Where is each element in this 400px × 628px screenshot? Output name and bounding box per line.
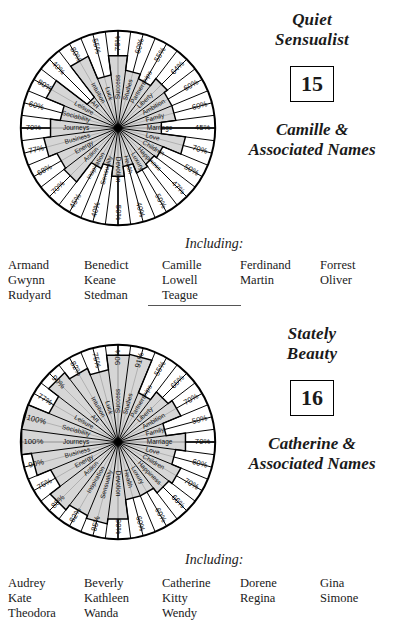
- name-item: Beverly: [84, 576, 162, 591]
- panel-side-column: Quiet Sensualist 15 Camille & Associated…: [228, 10, 396, 160]
- name-item: Martin: [240, 273, 320, 288]
- chart-value-label: 60%: [133, 37, 146, 54]
- chart-value-label: 75%: [36, 476, 54, 492]
- chart-value-label: 50%: [114, 205, 123, 221]
- name-item: Theodora: [8, 606, 84, 621]
- chart-value-label: 70%: [183, 476, 201, 492]
- name-item: Lowell: [162, 273, 240, 288]
- chart-value-label: 60%: [134, 515, 147, 532]
- chart-category-label: Journeys: [63, 438, 89, 446]
- name-item: Kathleen: [84, 591, 162, 606]
- name-item: Gina: [320, 576, 390, 591]
- name-item: Rudyard: [8, 288, 84, 303]
- profile-number-box: 16: [290, 380, 334, 416]
- name-group-title: Catherine & Associated Names: [228, 434, 396, 474]
- associated-names-list: Armand Benedict Camille Ferdinand Forres…: [8, 258, 396, 303]
- chart-value-label: 77%: [28, 143, 45, 156]
- profile-number: 15: [301, 71, 323, 97]
- profile-number-box: 15: [290, 66, 334, 102]
- chart-center-hub: [115, 125, 121, 131]
- chart-value-label: 55%: [90, 38, 103, 55]
- chart-value-label: 50%: [191, 413, 208, 426]
- chart-value-label: 50%: [183, 162, 201, 178]
- name-item: Simone: [320, 591, 390, 606]
- chart-value-label: 45%: [68, 192, 84, 210]
- chart-value-label: 75%: [90, 352, 103, 369]
- name-item: Teague: [162, 288, 240, 303]
- profile-title: Stately Beauty: [228, 324, 396, 364]
- chart-value-label: 68%: [36, 162, 54, 178]
- chart-value-label: 80%: [114, 519, 123, 535]
- chart-value-label: 40%: [134, 201, 147, 218]
- name-item: Ferdinand: [240, 258, 320, 273]
- name-group-title-line1: Camille &: [228, 120, 396, 140]
- profile-number: 16: [301, 385, 323, 411]
- name-item: Wanda: [84, 606, 162, 621]
- chart-value-label: 60%: [191, 99, 208, 112]
- name-item: Armand: [8, 258, 84, 273]
- associated-names-list: Audrey Beverly Catherine Dorene Gina Kat…: [8, 576, 396, 621]
- chart-value-label: 60%: [191, 457, 208, 470]
- chart-value-label: 77%: [36, 392, 54, 408]
- profile-title-line2: Beauty: [228, 344, 396, 364]
- chart-value-label: 70%: [195, 437, 211, 446]
- name-item: Regina: [240, 591, 320, 606]
- chart-category-label: Journeys: [63, 124, 89, 132]
- chart-value-label: 100%: [24, 437, 44, 446]
- chart-category-label: Success: [114, 75, 121, 99]
- chart-center-hub: [115, 439, 121, 445]
- name-item: Audrey: [8, 576, 84, 591]
- panel-side-column: Stately Beauty 16 Catherine & Associated…: [228, 324, 396, 474]
- chart-category-label: Marriage: [147, 438, 173, 446]
- chart-value-label: 82%: [68, 506, 84, 524]
- name-item: Catherine: [162, 576, 240, 591]
- chart-value-label: 70%: [191, 143, 208, 156]
- chart-category-label: Marriage: [147, 124, 173, 132]
- name-item: Forrest: [320, 258, 390, 273]
- name-chart-panel-quiet-sensualist: SuccessStudiesPartnershipsLibertyAmbitio…: [0, 0, 400, 314]
- radar-chart-svg: SuccessStudiesPartnershipsLibertyAmbitio…: [10, 8, 226, 248]
- profile-title-line2: Sensualist: [228, 30, 396, 50]
- name-item: Camille: [162, 258, 240, 273]
- name-group-title-line1: Catherine &: [228, 434, 396, 454]
- section-divider: [148, 305, 241, 306]
- chart-value-label: 50%: [153, 192, 169, 210]
- chart-category-label: Success: [114, 389, 121, 413]
- chart-value-label: 60%: [28, 99, 45, 112]
- radar-chart-svg: SuccessStudiesPartnershipsLibertyAmbitio…: [10, 322, 226, 562]
- name-item: Keane: [84, 273, 162, 288]
- name-item: [320, 606, 390, 621]
- name-item: Benedict: [84, 258, 162, 273]
- name-item: Stedman: [84, 288, 162, 303]
- name-group-title: Camille & Associated Names: [228, 120, 396, 160]
- chart-value-label: 60%: [182, 77, 200, 93]
- chart-value-label: 60%: [153, 506, 169, 524]
- including-label: Including:: [185, 236, 243, 252]
- name-group-title-line2: Associated Names: [228, 454, 396, 474]
- name-item: Gwynn: [8, 273, 84, 288]
- radar-chart-catherine: SuccessStudiesPartnershipsLibertyAmbitio…: [10, 322, 226, 562]
- profile-title: Quiet Sensualist: [228, 10, 396, 50]
- name-chart-panel-stately-beauty: SuccessStudiesPartnershipsLibertyAmbitio…: [0, 314, 400, 628]
- chart-value-label: 40%: [89, 201, 102, 218]
- chart-value-label: 45%: [195, 123, 211, 132]
- chart-value-label: 70%: [26, 123, 42, 132]
- radar-chart-camille: SuccessStudiesPartnershipsLibertyAmbitio…: [10, 8, 226, 248]
- chart-value-label: 75%: [113, 36, 122, 52]
- chart-category-label: Devotion: [115, 157, 122, 183]
- name-group-title-line2: Associated Names: [228, 140, 396, 160]
- chart-category-label: Devotion: [115, 471, 122, 497]
- chart-value-label: 55%: [152, 45, 168, 63]
- name-item: [240, 606, 320, 621]
- name-item: Kate: [8, 591, 84, 606]
- chart-value-label: 55%: [152, 359, 168, 377]
- name-item: [240, 288, 320, 303]
- including-label: Including:: [185, 552, 243, 568]
- profile-title-line1: Quiet: [228, 10, 396, 30]
- chart-value-label: 90%: [113, 350, 122, 366]
- name-item: Wendy: [162, 606, 240, 621]
- name-item: Kitty: [162, 591, 240, 606]
- chart-value-label: 70%: [182, 391, 200, 407]
- profile-title-line1: Stately: [228, 324, 396, 344]
- name-item: [320, 288, 390, 303]
